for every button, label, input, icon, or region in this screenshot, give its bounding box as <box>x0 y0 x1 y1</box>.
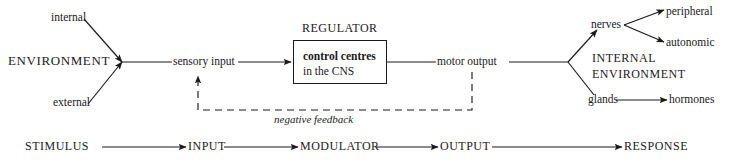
label-nerves: nerves <box>591 18 621 31</box>
chain-item-stimulus: STIMULUS <box>25 140 89 153</box>
label-external: external <box>53 96 90 109</box>
label-environment: ENVIRONMENT <box>8 54 110 69</box>
chain-item-modulator: MODULATOR <box>300 140 380 153</box>
label-hormones: hormones <box>669 93 714 106</box>
label-internal: internal <box>51 11 86 24</box>
label-glands: glands <box>588 93 618 106</box>
label-regulator-title: REGULATOR <box>302 22 378 35</box>
label-sensory-input: sensory input <box>173 55 235 68</box>
chain-item-output: OUTPUT <box>440 140 490 153</box>
label-in-the-cns: in the CNS <box>303 64 354 79</box>
line-nerves-to-autonomic <box>624 25 664 42</box>
label-control-centres: control centres <box>303 49 376 64</box>
line-nerves-to-peripheral <box>624 10 664 25</box>
chain-item-input: INPUT <box>188 140 226 153</box>
line-vertex-to-glands <box>568 62 594 95</box>
label-autonomic: autonomic <box>666 36 715 49</box>
chain-item-response: RESPONSE <box>624 140 688 153</box>
homeostasis-diagram: internal external ENVIRONMENT sensory in… <box>0 0 735 161</box>
label-motor-output: motor output <box>437 55 497 68</box>
label-internal-environment-line1: INTERNAL <box>592 52 656 65</box>
label-internal-environment-line2: ENVIRONMENT <box>592 68 686 81</box>
label-negative-feedback: negative feedback <box>274 113 353 125</box>
label-peripheral: peripheral <box>666 5 713 18</box>
